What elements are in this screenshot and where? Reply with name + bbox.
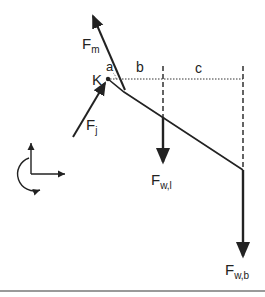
label-fj: Fj	[86, 117, 97, 136]
label-fwb: Fw,b	[225, 262, 249, 281]
free-body-diagram	[0, 0, 265, 297]
fm-main: F	[82, 35, 91, 52]
beam	[108, 79, 243, 170]
fj-sub: j	[95, 125, 97, 136]
fj-main: F	[86, 116, 95, 133]
label-fm: Fm	[82, 36, 100, 55]
label-c: c	[195, 61, 202, 75]
angle-a-arc	[113, 73, 116, 79]
label-a: a	[106, 60, 113, 73]
fwb-sub: w,b	[234, 270, 249, 281]
label-b: b	[136, 60, 144, 74]
fm-sub: m	[91, 44, 99, 55]
bottom-divider	[0, 290, 265, 292]
label-fwl: Fw,l	[151, 172, 172, 191]
label-k: K	[92, 72, 102, 87]
fwl-sub: w,l	[160, 180, 172, 191]
fwl-main: F	[151, 171, 160, 188]
fwb-main: F	[225, 261, 234, 278]
